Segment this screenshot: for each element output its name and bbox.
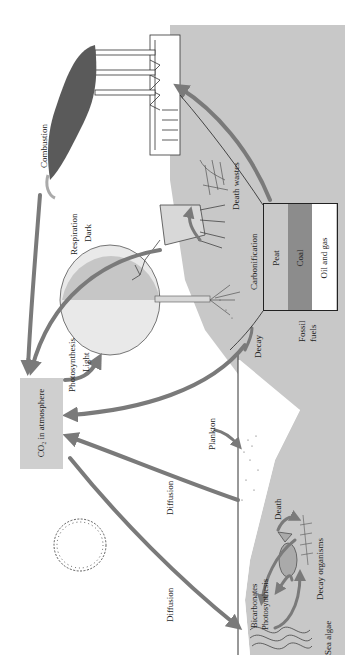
peat-layer: Peat [264,204,288,310]
label-light: Light [82,353,91,373]
label-diffusion-2: Diffusion [166,588,175,622]
label-decay-organisms: Decay organisms [316,538,325,600]
label-death: Death [274,499,283,521]
label-death-wastes: Death wastes [232,162,241,210]
co2-atmosphere-box: CO₂ in atmosphere [20,378,63,469]
label-plankton: Plankton [208,418,217,450]
label-bicarbonates: Bicarbonates [250,584,259,628]
arrow-diffusion-2 [70,458,236,625]
label-combustion: Combustion [40,124,49,168]
arrow-combustion [28,195,40,368]
fossil-fuels-box: Peat Coal Oil and gas [263,203,338,311]
oil-gas-label: Oil and gas [320,238,329,279]
label-fossil: Fossil [298,320,307,342]
label-carbonification: Carbonification [250,234,259,290]
coal-layer: Coal [288,204,312,310]
label-fuels: fuels [309,325,318,343]
label-decay: Decay [254,335,263,358]
peat-label: Peat [272,250,281,266]
label-photosynthesis-sea: Photosynthesis [261,579,270,630]
arrow-plankton [215,430,238,445]
oil-gas-layer: Oil and gas [312,204,336,310]
label-sea-algae: Sea algae [324,621,333,655]
factory [95,35,180,155]
arrow-decay [70,345,245,415]
label-dark: Dark [84,224,93,242]
label-diffusion-1: Diffusion [166,481,175,515]
coal-label: Coal [296,250,305,267]
label-respiration: Respiration [70,214,79,256]
smoke-plume [47,45,96,198]
sun [54,519,106,571]
co2-label: CO₂ in atmosphere [37,389,46,458]
label-photosynthesis-land: Photosynthesis [68,338,77,392]
